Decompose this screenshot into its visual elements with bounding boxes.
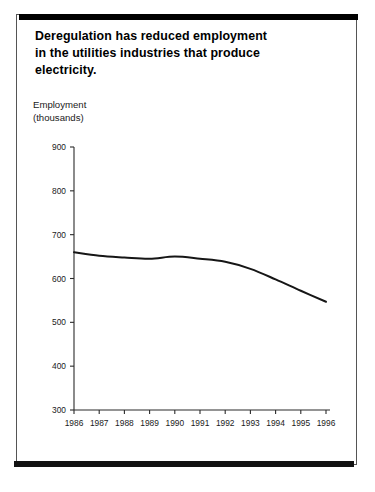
svg-text:1990: 1990 <box>165 418 184 428</box>
svg-text:700: 700 <box>52 230 66 240</box>
svg-text:1986: 1986 <box>65 418 84 428</box>
line-chart-svg: 300400500600700800900 198619871988198919… <box>30 138 340 428</box>
svg-text:1996: 1996 <box>317 418 336 428</box>
svg-text:1988: 1988 <box>115 418 134 428</box>
svg-text:1995: 1995 <box>291 418 310 428</box>
y-axis-caption: Employment (thousands) <box>33 98 86 124</box>
svg-text:1987: 1987 <box>90 418 109 428</box>
svg-text:1994: 1994 <box>266 418 285 428</box>
x-axis: 1986198719881989199019911992199319941995… <box>65 410 336 428</box>
svg-text:800: 800 <box>52 186 66 196</box>
svg-text:1993: 1993 <box>241 418 260 428</box>
svg-text:600: 600 <box>52 274 66 284</box>
data-series-line <box>74 252 326 302</box>
svg-text:400: 400 <box>52 361 66 371</box>
svg-text:1992: 1992 <box>216 418 235 428</box>
svg-text:1991: 1991 <box>191 418 210 428</box>
top-rule <box>19 14 358 20</box>
svg-text:1989: 1989 <box>140 418 159 428</box>
svg-text:500: 500 <box>52 317 66 327</box>
svg-text:300: 300 <box>52 405 66 415</box>
y-axis: 300400500600700800900 <box>52 142 74 415</box>
page-title: Deregulation has reduced employment in t… <box>35 28 325 79</box>
svg-text:900: 900 <box>52 142 66 152</box>
bottom-rule <box>14 461 354 467</box>
chart-plot-area: 300400500600700800900 198619871988198919… <box>30 138 340 428</box>
